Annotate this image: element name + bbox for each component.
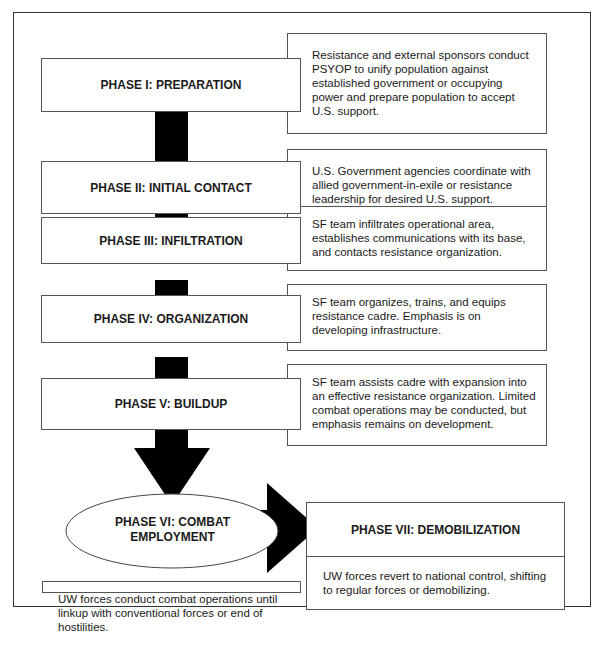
phase-4-label: PHASE IV: ORGANIZATION (94, 312, 248, 326)
phase-1-description: Resistance and external sponsors conduct… (287, 33, 547, 134)
phase-7-box: PHASE VII: DEMOBILIZATION (306, 502, 565, 557)
phase-7-description: UW forces revert to national control, sh… (306, 556, 565, 610)
phase-3-description: SF team infiltrates operational area, es… (287, 206, 547, 271)
phase-1-label: PHASE I: PREPARATION (101, 78, 242, 92)
phase-7-label: PHASE VII: DEMOBILIZATION (351, 523, 520, 537)
phase-3-box: PHASE III: INFILTRATION (41, 217, 301, 264)
phase-6-description: UW forces conduct combat operations unti… (42, 581, 301, 593)
phase-4-box: PHASE IV: ORGANIZATION (41, 295, 301, 343)
phase-5-description: SF team assists cadre with expansion int… (287, 364, 547, 446)
phase-5-label: PHASE V: BUILDUP (115, 397, 228, 411)
phase-1-box: PHASE I: PREPARATION (41, 58, 301, 112)
phase-2-box: PHASE II: INITIAL CONTACT (41, 161, 301, 214)
phase-4-description: SF team organizes, trains, and equips re… (287, 284, 547, 351)
phase-6-label: PHASE VI: COMBAT EMPLOYMENT (100, 515, 245, 545)
phase-3-label: PHASE III: INFILTRATION (99, 234, 243, 248)
phase-5-box: PHASE V: BUILDUP (41, 378, 301, 430)
phase-2-label: PHASE II: INITIAL CONTACT (90, 181, 252, 195)
